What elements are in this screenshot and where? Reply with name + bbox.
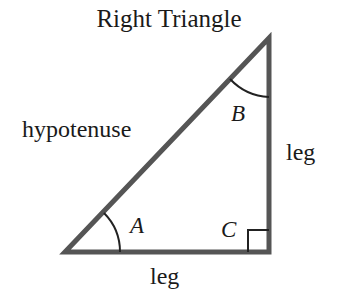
right-angle-marker [248,230,269,252]
angle-a-arc [104,213,120,252]
horizontal-leg-label: leg [150,264,179,288]
angle-a-label: A [130,214,144,237]
angle-b-arc [230,79,269,97]
angle-c-label: C [221,218,236,241]
vertical-leg-label: leg [286,140,315,164]
angle-b-label: B [231,102,245,125]
hypotenuse-label: hypotenuse [22,117,131,141]
triangle-outline [65,38,269,252]
